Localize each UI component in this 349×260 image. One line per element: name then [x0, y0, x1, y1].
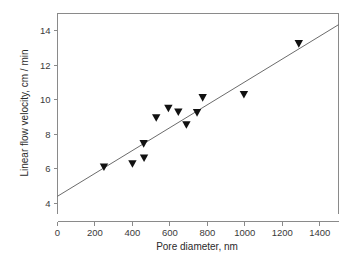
chart-figure: 468101214 0200400600800100012001400 Pore… [0, 0, 349, 260]
x-tick-label: 400 [125, 227, 141, 238]
x-tick-label: 1200 [272, 227, 293, 238]
data-points [100, 40, 303, 171]
data-point-marker [164, 105, 172, 113]
data-point-marker [182, 121, 190, 129]
x-tick-label: 800 [199, 227, 215, 238]
plot-frame [58, 14, 339, 222]
data-point-marker [198, 94, 206, 102]
x-tick-label: 600 [162, 227, 178, 238]
y-tick-label: 4 [45, 198, 50, 209]
x-axis-title: Pore diameter, nm [156, 241, 238, 252]
y-tick-label: 14 [40, 25, 51, 36]
data-point-marker [139, 140, 147, 148]
data-point-marker [174, 109, 182, 117]
y-axis-title: Linear flow velocity, cm / min [19, 49, 30, 176]
data-point-marker [152, 114, 160, 122]
y-tick-label: 12 [40, 60, 51, 71]
x-tick-label: 1000 [234, 227, 255, 238]
x-tick-label: 0 [55, 227, 60, 238]
data-point-marker [295, 40, 303, 48]
data-point-marker [240, 91, 248, 99]
y-tick-label: 6 [45, 163, 50, 174]
y-tick-label: 8 [45, 129, 50, 140]
x-tick-label: 200 [87, 227, 103, 238]
x-axis-ticks: 0200400600800100012001400 [55, 222, 330, 238]
scatter-plot: 468101214 0200400600800100012001400 Pore… [0, 0, 349, 260]
y-tick-label: 10 [40, 94, 51, 105]
x-tick-label: 1400 [309, 227, 330, 238]
data-point-marker [140, 154, 148, 162]
y-axis-ticks: 468101214 [40, 25, 58, 208]
data-point-marker [128, 160, 136, 168]
